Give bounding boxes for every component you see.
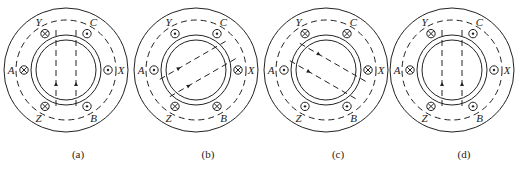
- stator-bore: [417, 35, 487, 105]
- cross-icon: [214, 104, 220, 110]
- dot-icon: [216, 32, 218, 34]
- cross-icon: [344, 31, 350, 37]
- label-X: X: [117, 64, 126, 76]
- arrow-icon: [176, 67, 180, 71]
- caption-d: (d): [458, 148, 471, 161]
- dot-icon: [107, 69, 109, 71]
- arrow-icon: [186, 85, 190, 89]
- arrow-icon: [440, 82, 444, 86]
- cross-icon: [428, 31, 434, 37]
- panel-c: AXYCZB(c): [264, 8, 388, 161]
- dot-icon: [283, 69, 285, 71]
- stator-outer: [134, 8, 258, 132]
- label-A: A: [137, 64, 145, 76]
- label-A: A: [267, 64, 275, 76]
- panel-d: AXYCZB(d): [390, 8, 514, 161]
- label-A: A: [393, 64, 401, 76]
- cross-icon: [42, 104, 48, 110]
- rotor: [296, 40, 356, 100]
- label-C: C: [220, 16, 228, 28]
- dot-icon: [472, 105, 474, 107]
- cross-icon: [407, 67, 413, 73]
- label-B: B: [220, 112, 227, 124]
- label-C: C: [476, 16, 484, 28]
- label-X: X: [503, 64, 512, 76]
- panel-b: AXYCZB(b): [134, 8, 258, 161]
- dot-icon: [472, 32, 474, 34]
- arrow-icon: [54, 82, 58, 86]
- label-B: B: [90, 112, 97, 124]
- cross-icon: [42, 31, 48, 37]
- dot-icon: [346, 105, 348, 107]
- label-X: X: [377, 64, 386, 76]
- stator-outer: [4, 8, 128, 132]
- cross-icon: [172, 104, 178, 110]
- caption-c: (c): [332, 148, 345, 161]
- cross-icon: [302, 31, 308, 37]
- arrow-icon: [306, 69, 310, 73]
- arrow-icon: [74, 82, 78, 86]
- stator-bore: [291, 35, 361, 105]
- rotor: [422, 40, 482, 100]
- caption-a: (a): [72, 148, 85, 161]
- stator-outer: [390, 8, 514, 132]
- label-C: C: [90, 16, 98, 28]
- panel-a: AXYCZB(a): [4, 8, 128, 161]
- label-B: B: [476, 112, 483, 124]
- dot-icon: [174, 32, 176, 34]
- label-Z: Z: [295, 112, 302, 124]
- dot-icon: [153, 69, 155, 71]
- motor-field-diagram: AXYCZB(a)AXYCZB(b)AXYCZB(c)AXYCZB(d): [0, 0, 516, 177]
- label-X: X: [247, 64, 256, 76]
- cross-icon: [21, 67, 27, 73]
- dot-icon: [493, 69, 495, 71]
- cross-icon: [365, 67, 371, 73]
- label-C: C: [350, 16, 358, 28]
- dot-icon: [86, 32, 88, 34]
- label-Z: Z: [165, 112, 172, 124]
- arrow-icon: [460, 82, 464, 86]
- rotor: [36, 40, 96, 100]
- label-A: A: [7, 64, 15, 76]
- dot-icon: [304, 105, 306, 107]
- arrow-icon: [316, 52, 320, 56]
- dot-icon: [86, 105, 88, 107]
- cross-icon: [428, 104, 434, 110]
- cross-icon: [235, 67, 241, 73]
- stator-bore: [31, 35, 101, 105]
- stator-outer: [264, 8, 388, 132]
- label-B: B: [350, 112, 357, 124]
- label-Z: Z: [35, 112, 42, 124]
- label-Z: Z: [421, 112, 428, 124]
- stator-bore: [161, 35, 231, 105]
- caption-b: (b): [202, 148, 215, 161]
